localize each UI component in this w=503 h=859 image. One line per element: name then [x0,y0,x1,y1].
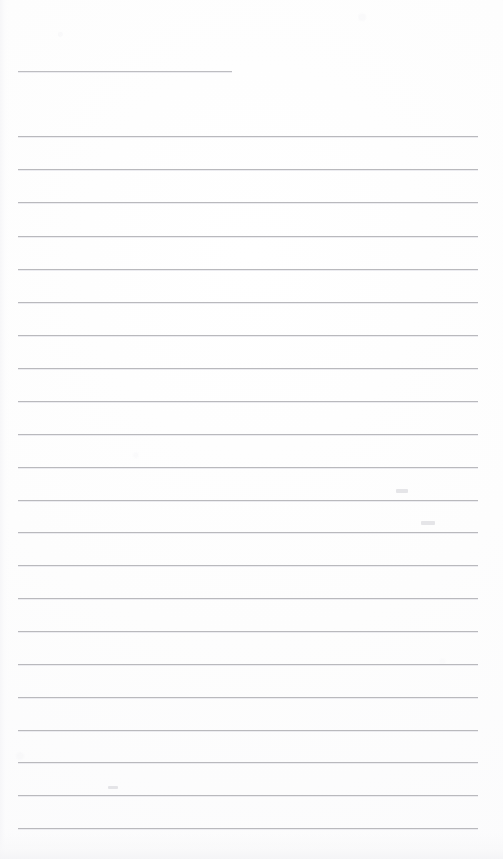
ruled-line-14 [18,565,478,566]
ruled-line-15 [18,598,478,599]
ruled-line-3 [18,202,478,203]
ruled-line-13 [18,532,478,533]
ruled-line-17 [18,664,478,665]
ruled-line-6 [18,302,478,303]
ruled-line-11 [18,467,478,468]
scanned-page [0,0,503,859]
title-underline-rule [18,71,232,72]
ruled-line-7 [18,335,478,336]
ruled-line-20 [18,762,478,763]
ruled-line-18 [18,697,478,698]
ruled-line-8 [18,368,478,369]
ruled-line-21 [18,795,478,796]
ruled-line-10 [18,434,478,435]
ruled-line-12 [18,500,478,501]
ruled-line-19 [18,730,478,731]
ruled-line-5 [18,269,478,270]
ruled-line-2 [18,169,478,170]
ruled-line-16 [18,631,478,632]
ruled-line-22 [18,828,478,829]
ruled-line-1 [18,136,478,137]
ruled-line-4 [18,236,478,237]
ruled-line-9 [18,401,478,402]
